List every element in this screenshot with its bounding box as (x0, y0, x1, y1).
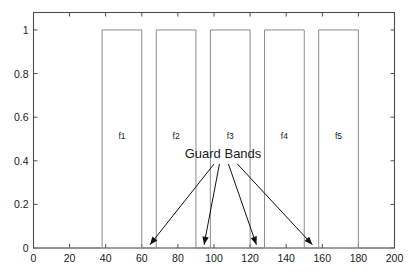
y-tick-label: 0.6 (14, 111, 29, 123)
x-tick-label: 0 (31, 252, 37, 264)
band-label-f4: f4 (281, 131, 288, 141)
x-tick-label: 80 (172, 252, 184, 264)
x-tick-label: 20 (64, 252, 76, 264)
band-label-f2: f2 (173, 131, 180, 141)
band-label-f1: f1 (118, 131, 125, 141)
y-tick-label: 0 (23, 242, 29, 254)
x-tick-label: 140 (277, 252, 295, 264)
chart-figure: 020406080100120140160180200 00.20.40.60.… (0, 0, 416, 274)
y-tick-label: 0.2 (14, 198, 29, 210)
x-tick-label: 40 (100, 252, 112, 264)
figure-background (0, 0, 416, 274)
y-tick-label: 1 (23, 24, 29, 36)
y-tick-label: 0.4 (14, 155, 29, 167)
x-tick-label: 120 (241, 252, 259, 264)
plot-canvas: 020406080100120140160180200 00.20.40.60.… (0, 0, 416, 274)
y-tick-label: 0.8 (14, 68, 29, 80)
x-tick-label: 100 (205, 252, 223, 264)
guard-bands-annotation: Guard Bands (185, 146, 262, 161)
x-tick-label: 60 (136, 252, 148, 264)
band-label-f3: f3 (227, 131, 234, 141)
x-tick-label: 160 (314, 252, 332, 264)
x-tick-label: 180 (350, 252, 368, 264)
x-tick-label: 200 (386, 252, 404, 264)
band-label-f5: f5 (335, 131, 342, 141)
